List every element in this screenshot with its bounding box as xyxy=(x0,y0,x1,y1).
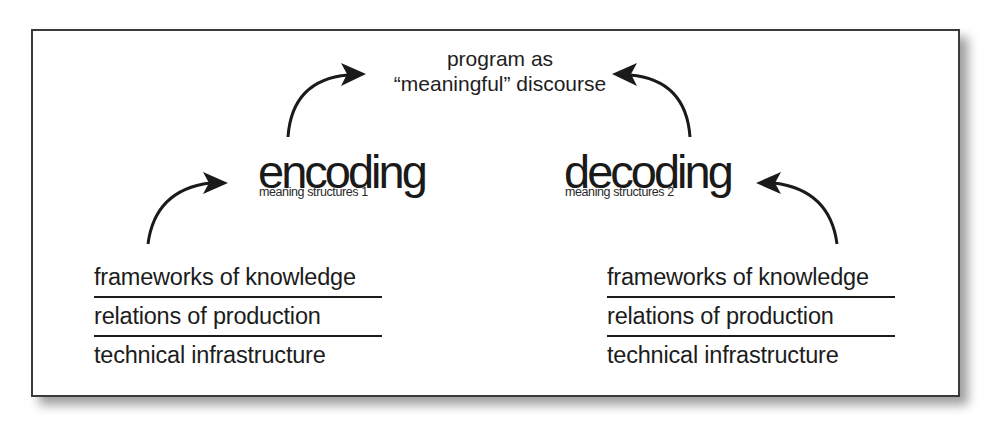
right-stack-divider-2 xyxy=(607,335,895,337)
left-stack-item-technical: technical infrastructure xyxy=(94,340,382,374)
left-stack-item-frameworks: frameworks of knowledge xyxy=(94,262,382,296)
right-stack-divider-1 xyxy=(607,296,895,298)
decoding-node: decoding meaning structures 2 xyxy=(564,150,731,198)
right-stack-item-relations: relations of production xyxy=(607,301,895,335)
encoding-node: encoding meaning structures 1 xyxy=(258,150,425,198)
right-stack-item-frameworks: frameworks of knowledge xyxy=(607,262,895,296)
left-stack: frameworks of knowledge relations of pro… xyxy=(94,262,382,374)
left-stack-item-relations: relations of production xyxy=(94,301,382,335)
left-stack-divider-1 xyxy=(94,296,382,298)
right-stack-item-technical: technical infrastructure xyxy=(607,340,895,374)
discourse-line-2: “meaningful” discourse xyxy=(370,71,630,96)
discourse-line-1: program as xyxy=(370,46,630,71)
discourse-node: program as “meaningful” discourse xyxy=(370,46,630,96)
right-stack: frameworks of knowledge relations of pro… xyxy=(607,262,895,374)
left-stack-divider-2 xyxy=(94,335,382,337)
